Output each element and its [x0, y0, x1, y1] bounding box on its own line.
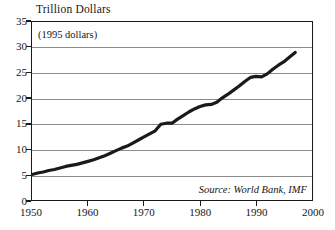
y-axis-tick-label: 15	[3, 118, 27, 129]
page-title: Trillion Dollars	[36, 3, 111, 15]
y-axis-tick-label: 5	[3, 170, 27, 181]
x-axis-tick-label: 1990	[235, 207, 279, 218]
chart-subtitle: (1995 dollars)	[38, 29, 97, 40]
y-axis-tick-label: 30	[3, 41, 27, 52]
source-annotation: Source: World Bank, IMF	[199, 184, 307, 195]
x-axis-tick-label: 1960	[65, 207, 109, 218]
y-axis-tick-label: 25	[3, 67, 27, 78]
data-series-line	[32, 22, 312, 200]
x-axis-tick-label: 1950	[9, 207, 53, 218]
y-axis-tick-labels: 05101520253035	[0, 21, 27, 201]
x-axis-tick-label: 1970	[122, 207, 166, 218]
y-axis-tick-label: 10	[3, 144, 27, 155]
x-axis-tick-label: 1980	[178, 207, 222, 218]
y-axis-tick-label: 35	[3, 16, 27, 27]
x-axis-tick-labels: 195019601970198019902000	[0, 207, 335, 223]
chart-figure: Trillion Dollars (1995 dollars) Source: …	[0, 0, 335, 230]
x-axis-tick-label: 2000	[291, 207, 335, 218]
y-axis-tick-label: 20	[3, 93, 27, 104]
plot-area: (1995 dollars) Source: World Bank, IMF	[31, 21, 313, 201]
